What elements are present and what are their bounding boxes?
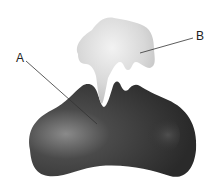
enzyme-substrate-diagram [0,0,216,191]
label-b: B [196,30,204,42]
molecule-a-shading [120,110,180,160]
label-a: A [16,52,24,64]
